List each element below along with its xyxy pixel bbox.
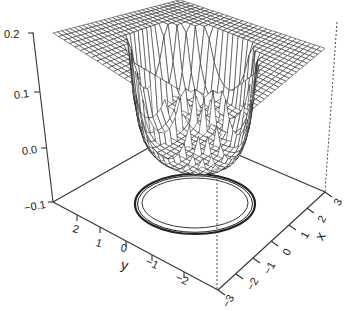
y-axis-label: y: [119, 256, 130, 273]
x-tick-3: 3: [331, 196, 344, 207]
z-tick-0.0: 0.0: [21, 143, 38, 157]
x-tick-neg3: −3: [220, 292, 237, 309]
y-tick-2: 2: [72, 222, 81, 235]
z-tick-0.1: 0.1: [13, 87, 30, 101]
z-axis: 0.2 0.1 0.0 −0.1: [4, 28, 54, 214]
x-tick-neg1: −1: [261, 259, 278, 276]
surface-plot: 0.2 0.1 0.0 −0.1 2 1 0 −1 −2 y −3 −2 −1 …: [0, 0, 353, 311]
z-tick-neg0.1: −0.1: [23, 198, 46, 214]
x-tick-2: 2: [315, 213, 328, 224]
x-axis-label: x: [311, 229, 328, 243]
x-tick-1: 1: [298, 229, 311, 240]
y-tick-0: 0: [120, 241, 129, 254]
x-tick-neg2: −2: [244, 275, 261, 292]
y-tick-1: 1: [95, 236, 104, 249]
surface-wireframe: [53, 0, 325, 175]
x-tick-0: 0: [280, 246, 293, 257]
z-tick-0.2: 0.2: [4, 28, 19, 40]
